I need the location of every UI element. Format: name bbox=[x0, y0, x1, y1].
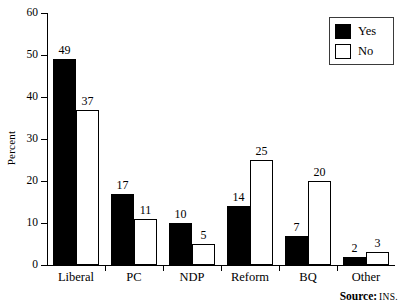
bar-reform-no bbox=[250, 160, 273, 265]
source-label: Source: bbox=[340, 290, 377, 302]
legend: Yes No bbox=[329, 17, 394, 65]
bar-other-yes bbox=[343, 257, 366, 265]
y-tick-label: 0 bbox=[12, 259, 38, 271]
category-label-ndp: NDP bbox=[163, 270, 221, 284]
category-label-liberal: Liberal bbox=[47, 270, 105, 284]
bar-value-label: 17 bbox=[105, 179, 140, 191]
legend-swatch-no-icon bbox=[335, 44, 351, 59]
legend-entry-no: No bbox=[335, 43, 373, 60]
bar-pc-no bbox=[134, 219, 157, 265]
category-label-pc: PC bbox=[105, 270, 163, 284]
y-axis-title: Percent bbox=[5, 118, 17, 178]
bar-liberal-no bbox=[76, 110, 99, 265]
bar-bq-no bbox=[308, 181, 331, 265]
legend-entry-yes: Yes bbox=[335, 23, 376, 40]
category-label-reform: Reform bbox=[221, 270, 279, 284]
y-tick-label: 20 bbox=[12, 175, 38, 187]
bar-value-label: 37 bbox=[70, 95, 105, 107]
bar-liberal-yes bbox=[53, 59, 76, 265]
y-tick-mark bbox=[41, 265, 48, 266]
bar-value-label: 49 bbox=[47, 44, 82, 56]
bar-ndp-no bbox=[192, 244, 215, 265]
legend-label-no: No bbox=[358, 45, 373, 58]
bar-value-label: 11 bbox=[128, 204, 163, 216]
y-tick-label: 40 bbox=[12, 91, 38, 103]
legend-label-yes: Yes bbox=[358, 25, 376, 38]
category-label-bq: BQ bbox=[279, 270, 337, 284]
bar-other-no bbox=[366, 252, 389, 265]
bar-value-label: 10 bbox=[163, 208, 198, 220]
y-tick-label: 60 bbox=[12, 7, 38, 19]
legend-swatch-yes-icon bbox=[335, 24, 351, 39]
category-label-other: Other bbox=[337, 270, 395, 284]
bar-value-label: 20 bbox=[302, 166, 337, 178]
y-tick-label: 50 bbox=[12, 49, 38, 61]
bar-value-label: 25 bbox=[244, 145, 279, 157]
bar-value-label: 5 bbox=[186, 229, 221, 241]
source-note: Source:INS. bbox=[340, 290, 398, 302]
y-tick-label: 30 bbox=[12, 133, 38, 145]
bar-chart: Percent 0102030405060 493717111051425720… bbox=[0, 0, 405, 305]
bar-value-label: 3 bbox=[360, 237, 395, 249]
bar-reform-yes bbox=[227, 206, 250, 265]
y-tick-label: 10 bbox=[12, 217, 38, 229]
bar-bq-yes bbox=[285, 236, 308, 265]
source-value: INS. bbox=[379, 292, 398, 302]
